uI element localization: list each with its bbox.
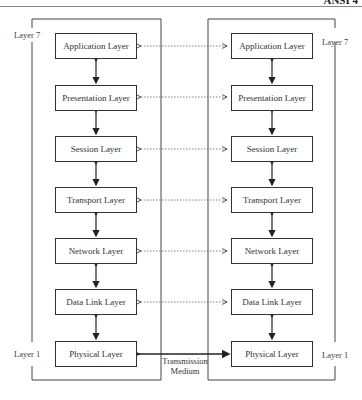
right-layer1-label: Layer 1 xyxy=(322,350,348,360)
left-presentation-layer: Presentation Layer xyxy=(55,85,137,111)
medium-line1: Transmission xyxy=(160,356,210,366)
left-physical-layer: Physical Layer xyxy=(55,341,137,367)
left-session-layer: Session Layer xyxy=(55,136,137,162)
left-data-link-layer: Data Link Layer xyxy=(55,289,137,315)
right-layer7-label: Layer 7 xyxy=(322,37,348,47)
right-transport-layer: Transport Layer xyxy=(231,187,313,213)
left-layer1-label: Layer 1 xyxy=(14,349,40,359)
medium-line2: Medium xyxy=(160,366,210,376)
left-layer7-label: Layer 7 xyxy=(14,30,40,40)
left-application-layer: Application Layer xyxy=(55,33,137,59)
left-transport-layer: Transport Layer xyxy=(55,187,137,213)
left-network-layer: Network Layer xyxy=(55,238,137,264)
right-physical-layer: Physical Layer xyxy=(231,341,313,367)
transmission-medium-label: Transmission Medium xyxy=(160,356,210,376)
right-application-layer: Application Layer xyxy=(231,33,313,59)
right-presentation-layer: Presentation Layer xyxy=(231,85,313,111)
right-network-layer: Network Layer xyxy=(231,238,313,264)
right-session-layer: Session Layer xyxy=(231,136,313,162)
right-data-link-layer: Data Link Layer xyxy=(231,289,313,315)
